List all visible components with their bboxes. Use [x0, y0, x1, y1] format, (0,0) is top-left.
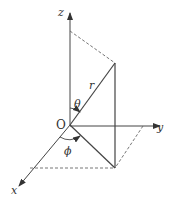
radius-line — [70, 63, 115, 125]
y-axis-label: y — [156, 121, 164, 134]
z-axis-label: z — [57, 6, 64, 19]
radius-label: r — [89, 79, 95, 92]
x-axis-label: x — [11, 184, 18, 197]
dashed-y-to-projection — [115, 126, 143, 168]
xy-projection-line — [70, 125, 115, 168]
dashed-z-to-point — [70, 31, 115, 63]
origin-label: O — [56, 118, 66, 132]
x-axis — [19, 125, 70, 186]
phi-arc — [60, 136, 80, 140]
theta-label: θ — [74, 98, 81, 111]
phi-label: ϕ — [64, 145, 72, 158]
spherical-coordinates-diagram: z y x O r θ ϕ — [0, 0, 175, 205]
